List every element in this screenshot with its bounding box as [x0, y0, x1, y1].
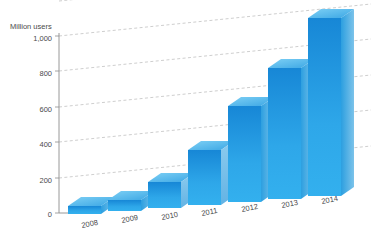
y-axis-title: Million users — [10, 22, 52, 31]
bar-2011 — [188, 141, 234, 205]
bar-2010 — [148, 173, 194, 208]
y-tick-label-400: 400 — [39, 140, 52, 149]
y-tick-label-1000: 1,000 — [33, 34, 52, 43]
y-tick-label-600: 600 — [39, 105, 52, 114]
y-tick-label-0: 0 — [48, 210, 52, 219]
bar-2012 — [228, 97, 274, 202]
bar-2013 — [268, 59, 314, 199]
chart-svg: Million users 1,000 800 600 400 200 0 — [0, 0, 371, 237]
y-tick-label-200: 200 — [39, 176, 52, 185]
bar-2014 — [308, 9, 354, 196]
y-tick-label-800: 800 — [39, 69, 52, 78]
bar-chart-3d: Million users 1,000 800 600 400 200 0 — [0, 0, 371, 237]
